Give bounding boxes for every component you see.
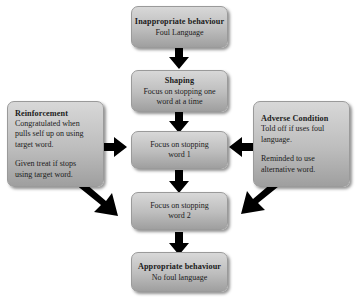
node-reinforcement: Reinforcement Congratulated when pulls s… — [7, 101, 104, 187]
node-line: Reminded to use — [261, 154, 315, 165]
node-line: Focus on stopping — [150, 140, 209, 151]
node-line: Focus on stopping — [150, 201, 209, 212]
node-line: target word. — [15, 140, 54, 151]
node-line: word 2 — [168, 211, 190, 222]
node-line: Focus on stopping one — [143, 87, 215, 98]
node-line: Foul Language — [155, 28, 203, 39]
node-line: using target word. — [15, 170, 73, 181]
node-line: No foul language — [152, 273, 208, 284]
node-adverse-condition: Adverse Condition Told off if uses foul … — [253, 101, 350, 187]
node-title: Shaping — [165, 75, 194, 86]
node-focus-word-2: Focus on stopping word 2 — [131, 192, 228, 230]
arrow-word1-to-word2 — [168, 170, 190, 194]
node-line: word 1 — [168, 150, 190, 161]
diagram-canvas: Inappropriate behaviour Foul Language Sh… — [0, 0, 358, 299]
node-line: Given treat if stops — [15, 159, 76, 170]
node-shaping: Shaping Focus on stopping one word at a … — [131, 70, 228, 112]
node-focus-word-1: Focus on stopping word 1 — [131, 131, 228, 169]
node-line: Told off if uses foul — [261, 124, 324, 135]
node-title: Inappropriate behaviour — [135, 16, 224, 27]
node-appropriate-behaviour: Appropriate behaviour No foul language — [131, 252, 228, 292]
node-line: alternative word. — [261, 165, 315, 176]
node-line: pulls self up on using — [15, 129, 83, 140]
node-line: word at a time — [157, 97, 203, 108]
arrow-inappropriate-to-shaping — [168, 46, 190, 70]
node-title: Adverse Condition — [261, 113, 328, 124]
node-line: language. — [261, 135, 292, 146]
node-title: Reinforcement — [15, 108, 68, 119]
node-inappropriate-behaviour: Inappropriate behaviour Foul Language — [131, 6, 228, 48]
node-title: Appropriate behaviour — [138, 261, 221, 272]
node-line: Congratulated when — [15, 119, 80, 130]
